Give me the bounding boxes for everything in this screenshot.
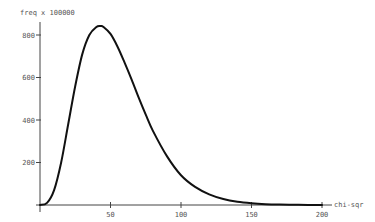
x-tick-label: 100 xyxy=(175,211,188,219)
y-tick-label: 800 xyxy=(22,32,35,40)
x-tick-label: 200 xyxy=(316,211,329,219)
y-ticks: 200400600800 xyxy=(22,32,41,168)
x-tick-label: 150 xyxy=(245,211,258,219)
x-tick-label: 50 xyxy=(106,211,114,219)
y-tick-label: 600 xyxy=(22,74,35,82)
y-axis-title: freq x 100000 xyxy=(20,9,75,17)
y-tick-label: 200 xyxy=(22,159,35,167)
chi-sqr-chart: freq x 100000 chi-sqr 200400600800 50100… xyxy=(0,0,375,222)
frequency-curve xyxy=(40,26,322,205)
x-axis-title: chi-sqr xyxy=(334,201,364,209)
y-tick-label: 400 xyxy=(22,117,35,125)
